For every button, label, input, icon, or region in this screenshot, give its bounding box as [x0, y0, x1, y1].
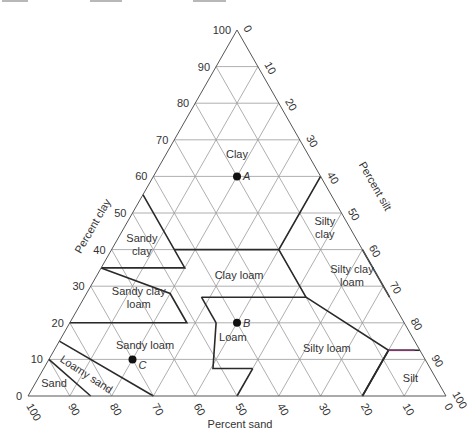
sand-tick-label: 50 [233, 401, 250, 418]
texture-boundary [362, 350, 388, 396]
texture-boundary [237, 369, 253, 396]
sand-tick-label: 80 [108, 401, 125, 418]
silt-tick-label: 0 [241, 23, 254, 34]
silt-axis-title: Percent silt [357, 159, 395, 212]
region-label-sand: Sand [41, 377, 67, 389]
clay-tick-label: 50 [114, 207, 126, 219]
region-label-sandy-clay: Sandyclay [126, 232, 158, 257]
clay-tick-label: 70 [156, 134, 168, 146]
soil-texture-triangle: 0010010109020208030307040406050505060604… [0, 0, 475, 444]
sand-tick-label: 60 [191, 401, 208, 418]
clay-tick-label: 10 [31, 353, 43, 365]
silt-tick-label: 90 [429, 352, 446, 369]
sand-tick-label: 90 [66, 401, 83, 418]
silt-tick-label: 70 [388, 279, 405, 296]
silt-tick-label: 60 [367, 243, 384, 260]
region-label-sandy-loam: Sandy loam [116, 339, 174, 351]
sand-tick-label: 20 [359, 401, 376, 418]
sand-axis-title: Percent sand [208, 418, 273, 430]
silt-tick-label: 20 [283, 96, 300, 113]
sample-point-label: C [139, 359, 147, 371]
sand-tick-label: 70 [150, 401, 167, 418]
sand-tick-label: 100 [24, 401, 44, 423]
texture-boundary [201, 297, 216, 323]
region-label-sandy-clay-loam: Sandy clayloam [112, 285, 166, 310]
region-label-silt: Silt [403, 372, 418, 384]
region-label-clay-loam: Clay loam [215, 269, 264, 281]
clay-tick-label: 20 [52, 317, 64, 329]
sand-tick-label: 10 [400, 401, 417, 418]
clay-tick-label: 90 [198, 61, 210, 73]
silt-tick-label: 40 [325, 169, 342, 186]
region-label-clay: Clay [226, 148, 249, 160]
region-label-loam: Loam [219, 331, 247, 343]
sample-point-label: B [243, 317, 250, 329]
clay-tick-label: 80 [177, 97, 189, 109]
clay-tick-label: 40 [93, 244, 105, 256]
region-label-silty-clay-loam: Silty clayloam [330, 263, 374, 288]
clay-tick-label: 100 [213, 24, 231, 36]
silt-tick-label: 30 [304, 133, 321, 150]
region-label-silty-clay: Siltyclay [314, 215, 335, 240]
silt-tick-label: 80 [408, 316, 425, 333]
grid-lines [49, 67, 425, 396]
sample-point-c [129, 355, 137, 363]
sand-tick-label: 40 [275, 401, 292, 418]
clay-tick-label: 60 [135, 170, 147, 182]
region-labels: ClaySandyclaySiltyclayClay loamSilty cla… [41, 148, 418, 395]
silt-tick-label: 10 [262, 60, 279, 77]
sand-tick-label: 0 [442, 401, 455, 412]
clay-tick-label: 30 [72, 280, 84, 292]
region-label-silty-loam: Silty loam [303, 342, 351, 354]
sample-point-a [233, 172, 241, 180]
axis-ticks: 0010010109020208030307040406050505060604… [16, 23, 470, 423]
sand-tick-label: 30 [317, 401, 334, 418]
silt-tick-label: 50 [346, 206, 363, 223]
clay-tick-label: 0 [16, 390, 22, 402]
sample-point-b [233, 319, 241, 327]
sample-point-label: A [242, 170, 250, 182]
